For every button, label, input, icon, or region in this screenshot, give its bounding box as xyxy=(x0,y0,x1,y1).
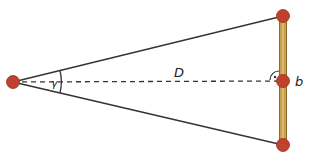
baseline-label: b xyxy=(295,74,303,89)
right-angle-dot xyxy=(274,76,276,78)
parallax-diagram: γ D b xyxy=(0,0,316,161)
bottom-point xyxy=(277,139,290,152)
top-point xyxy=(277,10,290,23)
angle-label: γ xyxy=(51,77,58,90)
upper-sight-line xyxy=(13,16,283,82)
lower-sight-line xyxy=(13,82,283,145)
apex-point xyxy=(7,76,20,89)
middle-point xyxy=(277,75,290,88)
distance-label: D xyxy=(174,65,184,80)
